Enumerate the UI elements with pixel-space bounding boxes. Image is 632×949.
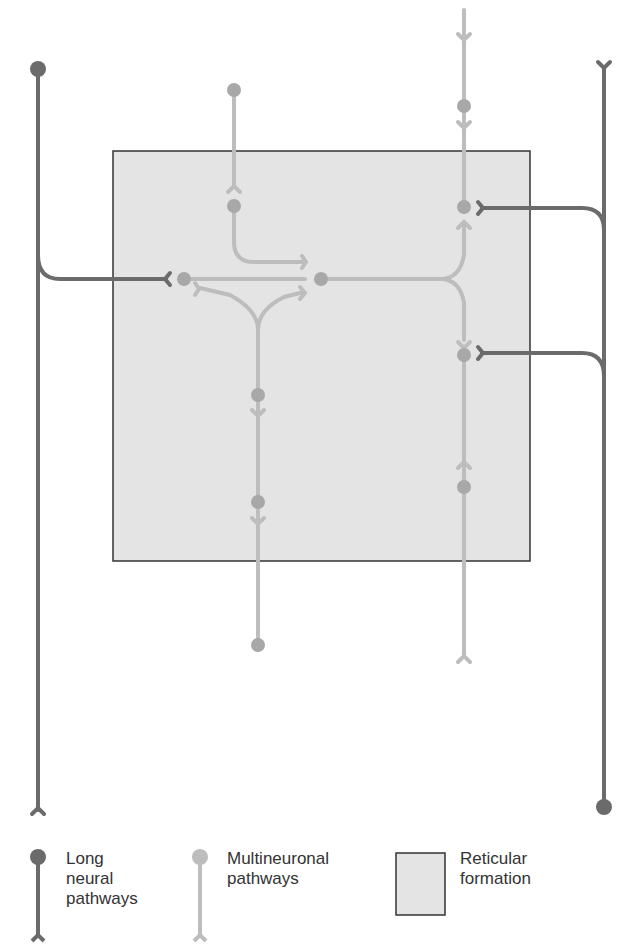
legend-long-label: Long neural pathways: [66, 849, 138, 909]
reticular-formation-diagram: [0, 0, 632, 949]
legend-formation-label: Reticular formation: [460, 849, 531, 889]
legend-multi-label: Multineuronal pathways: [227, 849, 329, 889]
legend-multi-icon: [192, 849, 208, 941]
legend-formation-swatch: [396, 853, 445, 915]
legend-long-icon: [30, 849, 46, 941]
